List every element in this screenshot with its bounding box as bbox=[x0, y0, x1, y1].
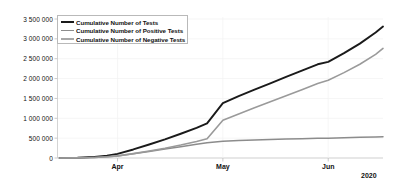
x-tick-label: Apr bbox=[112, 163, 124, 171]
year-label: 2020 bbox=[361, 172, 377, 180]
chart-legend: Cumulative Number of Tests Cumulative Nu… bbox=[57, 15, 188, 44]
legend-item-tests: Cumulative Number of Tests bbox=[61, 18, 184, 26]
cumulative-tests-chart: 0500 0001 000 0001 500 0002 000 0002 500… bbox=[0, 0, 402, 182]
legend-swatch-positive-tests bbox=[61, 30, 74, 32]
x-tick-label: Jun bbox=[322, 163, 334, 171]
legend-swatch-tests bbox=[61, 21, 74, 23]
legend-label-negative-tests: Cumulative Number of Negative Tests bbox=[76, 36, 185, 43]
legend-label-positive-tests: Cumulative Number of Positive Tests bbox=[76, 27, 183, 34]
legend-item-positive-tests: Cumulative Number of Positive Tests bbox=[61, 27, 184, 35]
legend-swatch-negative-tests bbox=[61, 38, 74, 40]
x-tick-label: May bbox=[216, 163, 230, 171]
legend-label-tests: Cumulative Number of Tests bbox=[76, 19, 158, 26]
legend-item-negative-tests: Cumulative Number of Negative Tests bbox=[61, 35, 184, 43]
